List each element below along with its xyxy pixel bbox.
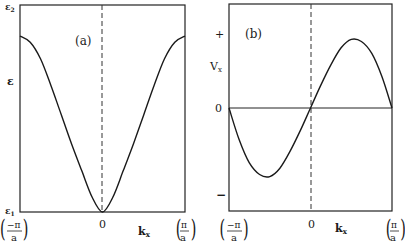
panel-a-frame (20, 5, 185, 212)
svg-text:−π: −π (227, 220, 241, 230)
y-tick-eps1: ε1 (5, 206, 15, 217)
x-label-kx-b: kx (335, 222, 348, 236)
svg-text:): ) (243, 215, 249, 243)
x-tick-zero-a: 0 (99, 218, 106, 231)
svg-text:a: a (11, 232, 17, 243)
y-tick-eps2: ε2 (5, 2, 15, 13)
x-label-kx-a: kx (138, 225, 151, 239)
panel-b: (b) + Vx 0 − ( −π a ) 0 kx ( π a ) (209, 4, 405, 243)
svg-text:π: π (181, 220, 187, 230)
svg-text:): ) (23, 215, 29, 243)
panel-b-label: (b) (245, 27, 262, 41)
x-tick-pi-over-a-a: ( π a ) (176, 215, 197, 243)
panel-a: (a) ε2 ε ε1 ( −π a ) 0 kx ( π a ) (0, 2, 196, 243)
y-tick-minus: − (216, 188, 226, 202)
y-label-vx: Vx (209, 60, 222, 74)
y-label-eps: ε (7, 75, 14, 88)
y-tick-plus: + (215, 28, 224, 41)
svg-text:a: a (231, 232, 237, 243)
figure: (a) ε2 ε ε1 ( −π a ) 0 kx ( π a ) (b) + … (0, 0, 405, 247)
x-tick-pi-over-a-b: ( π a ) (386, 215, 405, 243)
y-tick-zero: 0 (215, 102, 222, 115)
x-tick-zero-b: 0 (308, 218, 315, 231)
x-tick-neg-pi-over-a-a: ( −π a ) (0, 215, 28, 243)
svg-text:−π: −π (7, 220, 21, 230)
x-tick-neg-pi-over-a-b: ( −π a ) (220, 215, 249, 243)
svg-text:a: a (180, 232, 186, 243)
svg-text:(: ( (0, 215, 6, 243)
panel-a-label: (a) (75, 34, 92, 48)
svg-text:): ) (191, 215, 197, 243)
svg-text:π: π (391, 220, 397, 230)
svg-text:): ) (400, 215, 405, 243)
svg-text:a: a (390, 232, 396, 243)
svg-text:(: ( (220, 215, 226, 243)
